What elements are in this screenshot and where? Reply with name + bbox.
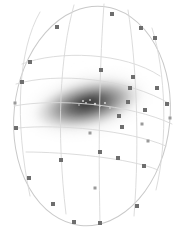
grid-node-marker [55,25,59,29]
grid-node-marker [20,80,24,84]
grid-node-marker [99,68,103,72]
grid-node-marker [165,102,169,106]
grid-node-marker [98,150,102,154]
grid-node-marker [153,36,157,40]
grid-node-marker [141,123,144,126]
grid-node-marker [94,187,97,190]
grid-node-marker [14,102,17,105]
grid-node-marker [139,26,143,30]
grid-node-marker [143,108,147,112]
grid-node-marker [155,86,159,90]
meridian-m4 [128,10,137,216]
meridian-m3 [99,4,104,222]
grid-node-marker [135,204,139,208]
grid-node-marker [142,164,146,168]
grid-node-marker [126,100,130,104]
grid-node-marker [116,156,120,160]
grid-node-marker [72,220,76,224]
grid-node-marker [51,202,55,206]
galaxy-grid-figure [0,0,184,233]
grid-node-marker [89,132,92,135]
parallel-p3 [14,103,172,124]
parallel-p2 [16,78,170,104]
meridian-m2 [60,5,74,214]
grid-node-marker [117,114,121,118]
parallel-p1 [22,55,160,76]
grid-node-marker [28,60,32,64]
grid-node-marker [120,125,124,129]
parallel-p4 [18,127,166,146]
grid-node-marker [59,158,63,162]
grid-node-marker [169,117,172,120]
grid-node-marker [27,176,31,180]
parallel-p5 [26,152,158,170]
grid-node-marker [131,75,135,79]
grid-node-marker [98,221,102,225]
coordinate-grid-layer [0,0,184,233]
parallel-lines [14,55,172,170]
grid-node-marker [14,126,18,130]
grid-node-marker [147,140,150,143]
meridian-m5 [152,28,164,190]
grid-node-marker [110,12,114,16]
grid-node-marker [128,86,132,90]
